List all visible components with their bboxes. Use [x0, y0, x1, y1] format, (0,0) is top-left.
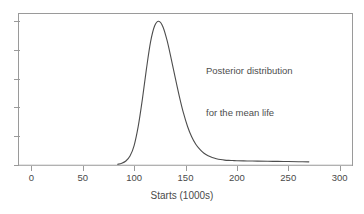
annotation-line-1: Posterior distribution	[206, 64, 293, 78]
x-axis-title: Starts (1000s)	[0, 191, 364, 201]
x-tick-label: 300	[332, 172, 348, 183]
annotation-line-2: for the mean life	[206, 106, 293, 120]
x-tick-label: 150	[178, 172, 194, 183]
x-tick-label: 200	[229, 172, 245, 183]
plot-frame	[19, 14, 353, 166]
x-tick-label: 0	[29, 172, 34, 183]
x-tick-label: 50	[77, 172, 88, 183]
x-tick-label: 250	[280, 172, 296, 183]
chart-annotation: Posterior distribution for the mean life	[206, 36, 293, 148]
x-tick-label: 100	[126, 172, 142, 183]
chart-figure: Posterior distribution for the mean life…	[0, 0, 364, 214]
